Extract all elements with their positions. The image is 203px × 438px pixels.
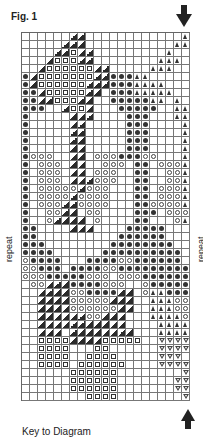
chart-cell-hollow-circle [102, 185, 110, 193]
filled-dot-icon [151, 258, 156, 263]
chart-cell-filled-dot [142, 161, 150, 169]
chart-cell-filled-triangle [182, 177, 190, 185]
filled-dot-icon [47, 258, 52, 263]
filled-dot-icon [127, 90, 132, 95]
chart-cell-hollow-square [78, 89, 86, 97]
filled-dot-icon [23, 194, 28, 199]
chart-cell-diagonal-half-dark [86, 81, 94, 89]
chart-cell-hollow-inverted-triangle [182, 377, 190, 385]
chart-cell-empty [38, 49, 46, 57]
chart-cell-empty [54, 233, 62, 241]
hollow-square-icon [87, 370, 92, 375]
chart-cell-filled-dot [150, 105, 158, 113]
chart-cell-empty [134, 49, 142, 57]
chart-cell-empty [86, 145, 94, 153]
chart-cell-filled-dot [22, 217, 30, 225]
filled-triangle-icon [167, 314, 171, 319]
filled-dot-icon [135, 202, 140, 207]
chart-cell-empty [38, 233, 46, 241]
chart-cell-empty [134, 329, 142, 337]
chart-cell-hollow-square [46, 73, 54, 81]
hollow-circle-icon [183, 306, 188, 311]
chart-cell-empty [110, 217, 118, 225]
chart-cell-filled-dot [134, 113, 142, 121]
filled-dot-icon [31, 250, 36, 255]
chart-cell-empty [110, 209, 118, 217]
hollow-circle-icon [175, 298, 180, 303]
chart-cell-diagonal-half-dark [54, 329, 62, 337]
chart-cell-hollow-circle [70, 185, 78, 193]
chart-cell-empty [102, 145, 110, 153]
chart-cell-hollow-circle [86, 313, 94, 321]
chart-cell-filled-triangle [166, 329, 174, 337]
chart-cell-hollow-square [62, 81, 70, 89]
chart-cell-filled-dot [182, 289, 190, 297]
chart-cell-empty [46, 137, 54, 145]
chart-cell-filled-triangle [174, 105, 182, 113]
chart-cell-empty [22, 57, 30, 65]
filled-dot-icon [159, 274, 164, 279]
hollow-circle-icon [127, 258, 132, 263]
hollow-circle-icon [111, 162, 116, 167]
chart-cell-hollow-square [62, 361, 70, 369]
chart-cell-hollow-circle [142, 281, 150, 289]
filled-triangle-icon [183, 122, 187, 127]
chart-cell-empty [46, 33, 54, 41]
figure-title: Fig. 1 [11, 11, 37, 22]
chart-cell-filled-dot [126, 89, 134, 97]
chart-cell-empty [118, 209, 126, 217]
chart-cell-empty [30, 145, 38, 153]
chart-cell-filled-triangle [182, 145, 190, 153]
chart-cell-empty [70, 345, 78, 353]
hollow-inverted-triangle-icon [175, 346, 181, 351]
chart-cell-empty [126, 201, 134, 209]
chart-cell-empty [62, 377, 70, 385]
chart-cell-empty [102, 33, 110, 41]
filled-dot-icon [159, 258, 164, 263]
chart-cell-hollow-circle [174, 217, 182, 225]
chart-cell-hollow-circle [78, 305, 86, 313]
chart-cell-empty [30, 305, 38, 313]
chart-cell-empty [30, 209, 38, 217]
filled-dot-icon [95, 266, 100, 271]
chart-cell-hollow-inverted-triangle [158, 337, 166, 345]
hollow-circle-icon [111, 154, 116, 159]
hollow-square-icon [71, 90, 76, 95]
hollow-circle-icon [175, 162, 180, 167]
chart-cell-hollow-square [46, 361, 54, 369]
chart-cell-hollow-circle [46, 177, 54, 185]
chart-cell-empty [126, 313, 134, 321]
chart-cell-filled-dot [158, 233, 166, 241]
chart-cell-filled-dot [174, 273, 182, 281]
filled-dot-icon [23, 146, 28, 151]
chart-cell-empty [118, 113, 126, 121]
filled-dot-icon [143, 98, 148, 103]
chart-cell-filled-dot [30, 233, 38, 241]
hollow-circle-icon [175, 170, 180, 175]
chart-cell-filled-dot [118, 249, 126, 257]
chart-cell-filled-dot [22, 249, 30, 257]
hollow-circle-icon [175, 202, 180, 207]
hollow-circle-icon [39, 282, 44, 287]
chart-cell-filled-triangle [142, 89, 150, 97]
chart-cell-hollow-circle [78, 289, 86, 297]
chart-cell-diagonal-half-dark [94, 321, 102, 329]
chart-cell-empty [70, 241, 78, 249]
chart-cell-empty [126, 49, 134, 57]
chart-cell-hollow-circle [86, 185, 94, 193]
chart-cell-empty [150, 137, 158, 145]
filled-dot-icon [111, 90, 116, 95]
chart-cell-empty [174, 153, 182, 161]
hollow-square-icon [103, 346, 108, 351]
chart-cell-filled-dot [134, 249, 142, 257]
chart-cell-hollow-circle [86, 193, 94, 201]
chart-cell-empty [126, 193, 134, 201]
filled-dot-icon [159, 242, 164, 247]
hollow-square-icon [103, 354, 108, 359]
chart-cell-empty [94, 121, 102, 129]
chart-cell-filled-dot [134, 201, 142, 209]
chart-cell-filled-dot [174, 257, 182, 265]
chart-cell-empty [166, 33, 174, 41]
hollow-square-icon [71, 66, 76, 71]
chart-cell-diagonal-half-dark [70, 329, 78, 337]
